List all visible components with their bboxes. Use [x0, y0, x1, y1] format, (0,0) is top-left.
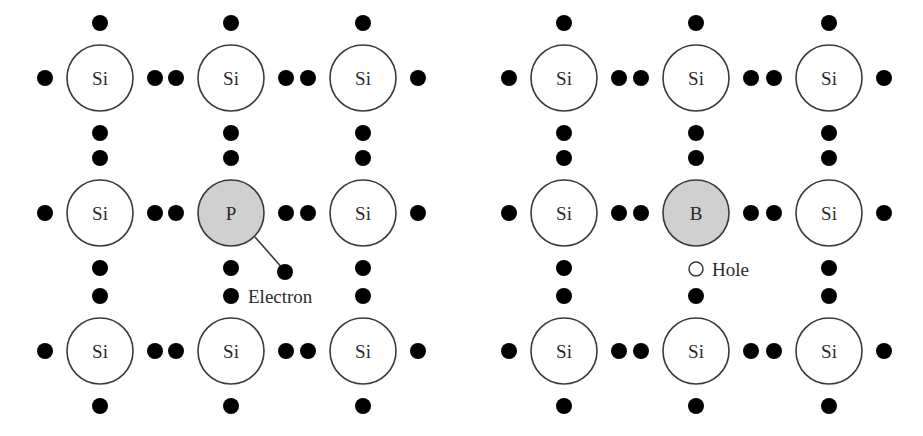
p-type-lattice: SiSiSiSiBSiSiSiSi	[501, 15, 892, 414]
valence-electron-dot	[168, 343, 184, 359]
valence-electron-dot	[688, 288, 704, 304]
valence-electron-dot	[501, 205, 517, 221]
atom-label: Si	[355, 341, 371, 362]
valence-electron-dot	[688, 398, 704, 414]
valence-electron-dot	[278, 70, 294, 86]
valence-electron-dot	[556, 125, 572, 141]
atom-label: Si	[821, 203, 837, 224]
valence-electron-dot	[37, 343, 53, 359]
atom-label: Si	[223, 68, 239, 89]
atom-label: P	[226, 203, 237, 224]
valence-electron-dot	[688, 125, 704, 141]
valence-electron-dot	[556, 260, 572, 276]
valence-electron-dot	[743, 343, 759, 359]
valence-electron-dot	[821, 260, 837, 276]
valence-electron-dot	[766, 70, 782, 86]
valence-electron-dot	[611, 205, 627, 221]
valence-electron-dot	[633, 343, 649, 359]
valence-electron-dot	[501, 343, 517, 359]
valence-electron-dot	[223, 398, 239, 414]
hole-label: Hole	[712, 259, 749, 280]
valence-electron-dot	[556, 15, 572, 31]
valence-electron-dot	[37, 205, 53, 221]
valence-electron-dot	[92, 260, 108, 276]
atom-label: Si	[556, 203, 572, 224]
valence-electron-dot	[766, 205, 782, 221]
valence-electron-dot	[147, 70, 163, 86]
atom-label: Si	[556, 68, 572, 89]
valence-electron-dot	[556, 398, 572, 414]
valence-electron-dot	[92, 125, 108, 141]
valence-electron-dot	[821, 288, 837, 304]
atom-label: Si	[92, 341, 108, 362]
valence-electron-dot	[876, 343, 892, 359]
valence-electron-dot	[223, 125, 239, 141]
valence-electron-dot	[300, 70, 316, 86]
valence-electron-dot	[223, 15, 239, 31]
valence-electron-dot	[168, 205, 184, 221]
valence-electron-dot	[355, 260, 371, 276]
atom-label: Si	[821, 341, 837, 362]
atom-label: Si	[355, 203, 371, 224]
valence-electron-dot	[92, 288, 108, 304]
valence-electron-dot	[223, 150, 239, 166]
valence-electron-dot	[223, 288, 239, 304]
valence-electron-dot	[556, 150, 572, 166]
annotations: ElectronHole	[248, 237, 749, 307]
valence-electron-dot	[92, 150, 108, 166]
valence-electron-dot	[355, 125, 371, 141]
valence-electron-dot	[410, 343, 426, 359]
doping-diagram: SiSiSiSiPSiSiSiSi SiSiSiSiBSiSiSiSi Elec…	[0, 0, 923, 436]
valence-electron-dot	[633, 205, 649, 221]
atom-label: Si	[92, 203, 108, 224]
valence-electron-dot	[821, 398, 837, 414]
atom-label: Si	[556, 341, 572, 362]
valence-electron-dot	[300, 205, 316, 221]
valence-electron-dot	[743, 70, 759, 86]
valence-electron-dot	[410, 205, 426, 221]
atom-label: Si	[92, 68, 108, 89]
electron-label: Electron	[248, 286, 313, 307]
valence-electron-dot	[300, 343, 316, 359]
valence-electron-dot	[876, 70, 892, 86]
valence-electron-dot	[168, 70, 184, 86]
valence-electron-dot	[355, 288, 371, 304]
atom-label: Si	[688, 341, 704, 362]
valence-electron-dot	[223, 260, 239, 276]
valence-electron-dot	[633, 70, 649, 86]
atom-label: Si	[821, 68, 837, 89]
free-electron-dot	[277, 264, 293, 280]
valence-electron-dot	[821, 15, 837, 31]
valence-electron-dot	[611, 70, 627, 86]
atom-label: Si	[688, 68, 704, 89]
valence-electron-dot	[355, 398, 371, 414]
valence-electron-dot	[611, 343, 627, 359]
valence-electron-dot	[278, 205, 294, 221]
valence-electron-dot	[688, 15, 704, 31]
valence-electron-dot	[147, 343, 163, 359]
atom-label: Si	[223, 341, 239, 362]
valence-electron-dot	[355, 150, 371, 166]
valence-electron-dot	[688, 150, 704, 166]
valence-electron-dot	[355, 15, 371, 31]
atom-label: Si	[355, 68, 371, 89]
valence-electron-dot	[92, 15, 108, 31]
valence-electron-dot	[743, 205, 759, 221]
n-type-lattice: SiSiSiSiPSiSiSiSi	[37, 15, 426, 414]
valence-electron-dot	[766, 343, 782, 359]
valence-electron-dot	[821, 125, 837, 141]
valence-electron-dot	[821, 150, 837, 166]
valence-electron-dot	[501, 70, 517, 86]
valence-electron-dot	[876, 205, 892, 221]
valence-electron-dot	[37, 70, 53, 86]
atom-label: B	[690, 203, 703, 224]
hole-icon	[689, 262, 703, 276]
valence-electron-dot	[92, 398, 108, 414]
valence-electron-dot	[556, 288, 572, 304]
valence-electron-dot	[147, 205, 163, 221]
electron-pointer-line	[255, 237, 284, 270]
valence-electron-dot	[278, 343, 294, 359]
valence-electron-dot	[410, 70, 426, 86]
